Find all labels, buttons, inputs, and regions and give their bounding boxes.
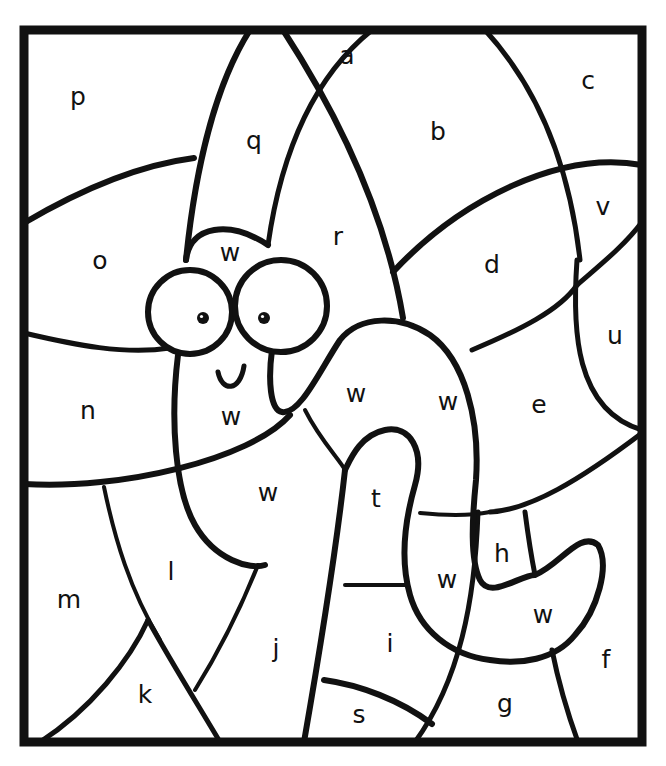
worm-w-divider-line (305, 410, 345, 470)
left-eye-highlight (200, 315, 203, 318)
p-o-divider-line (24, 158, 194, 223)
region-letter-o: o (92, 246, 107, 275)
region-letter-e: e (531, 390, 546, 419)
j-s-divider-line (304, 470, 345, 742)
region-letter-m: m (57, 585, 81, 614)
region-letter-h: h (494, 539, 510, 568)
mouth (218, 366, 244, 386)
region-letter-t: t (371, 484, 381, 513)
region-letter-q: q (246, 126, 262, 155)
region-letter-s: s (352, 700, 365, 729)
l-j-divider-line (195, 565, 258, 690)
region-letter-n: n (80, 396, 96, 425)
region-letter-u: u (607, 321, 623, 350)
c-arc-line (485, 30, 580, 260)
region-letter-a: a (339, 41, 354, 70)
m-l-divider-line (104, 487, 160, 640)
region-letter-b: b (430, 117, 446, 146)
b-left-arc-line (268, 30, 372, 245)
region-letters: abcpqrvodwunwwwewthlwwmjifkgs (57, 41, 623, 729)
right-eye (235, 260, 327, 352)
q-left-arc-line (186, 30, 250, 260)
region-letter-f: f (602, 645, 612, 674)
body-left-line (174, 355, 265, 566)
v-u-divider-line (577, 222, 642, 285)
region-letter-w: w (438, 387, 458, 416)
region-letter-l: l (168, 557, 175, 586)
region-letter-p: p (70, 82, 86, 111)
h-right-line (525, 512, 535, 575)
s-top-line (324, 680, 432, 724)
o-n-divider-line (24, 333, 170, 350)
region-letter-w: w (221, 402, 241, 431)
region-letter-w: w (220, 238, 240, 267)
region-letter-w: w (258, 478, 278, 507)
region-letter-w: w (533, 600, 553, 629)
region-letter-i: i (387, 629, 394, 658)
right-eye-highlight (261, 315, 264, 318)
worksheet-canvas: abcpqrvodwunwwwewthlwwmjifkgs (0, 0, 666, 766)
region-letter-w: w (437, 565, 457, 594)
region-letter-j: j (272, 634, 280, 663)
left-eye-pupil (197, 312, 209, 324)
g-f-divider-line (552, 650, 578, 742)
k-left-line (40, 620, 148, 742)
region-letter-d: d (484, 250, 500, 279)
n-bottom-line (24, 415, 290, 485)
region-letter-g: g (497, 689, 513, 718)
k-right-line (148, 620, 220, 742)
e-bottom-arc-line (490, 433, 642, 512)
region-letter-k: k (138, 680, 153, 709)
d-bottom-arc-line (472, 285, 577, 350)
region-outlines (24, 30, 642, 742)
right-eye-pupil (258, 312, 270, 324)
region-letter-w: w (346, 379, 366, 408)
left-eye (148, 270, 232, 354)
region-letter-c: c (581, 66, 595, 95)
region-letter-v: v (596, 192, 611, 221)
region-letter-r: r (333, 222, 344, 251)
